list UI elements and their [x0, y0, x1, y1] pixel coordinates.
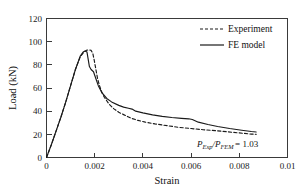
annotation-value: = 1.03	[235, 139, 259, 149]
y-tick-label: 0	[38, 153, 43, 163]
y-tick-label: 40	[33, 106, 43, 116]
series-line-fe-model	[47, 51, 257, 158]
y-tick-label: 120	[29, 14, 43, 24]
y-tick-label: 20	[33, 130, 43, 140]
annotation-denominator-sub: FEM	[219, 143, 234, 150]
x-tick-labels: 0 0.002 0.004 0.006 0.008 0.01	[44, 161, 295, 171]
x-tick-label: 0	[44, 161, 49, 171]
legend-label-experiment: Experiment	[228, 24, 273, 34]
x-tick-label: 0.002	[85, 161, 105, 171]
y-tick-label: 80	[33, 60, 43, 70]
load-strain-chart: 0 20 40 60 80 100 120 0 0.002 0.004 0.00…	[0, 0, 305, 192]
x-tick-label: 0.004	[133, 161, 154, 171]
x-tick-label: 0.006	[181, 161, 202, 171]
legend-label-fe-model: FE model	[228, 40, 266, 50]
series-line-experiment	[47, 50, 257, 158]
x-tick-marks	[47, 153, 288, 158]
annotation-numerator-sub: Exp	[202, 143, 213, 150]
chart-legend: Experiment FE model	[200, 24, 273, 50]
chart-svg: 0 20 40 60 80 100 120 0 0.002 0.004 0.00…	[0, 0, 305, 192]
y-axis-title: Load (kN)	[7, 65, 19, 110]
y-tick-label: 100	[29, 37, 43, 47]
x-tick-label: 0.008	[229, 161, 250, 171]
y-tick-marks	[47, 19, 52, 158]
y-tick-label: 60	[33, 83, 43, 93]
x-axis-title: Strain	[154, 175, 180, 186]
x-tick-label: 0.01	[280, 161, 296, 171]
ratio-annotation: PExp/PFEM= 1.03	[196, 139, 259, 150]
y-tick-labels: 0 20 40 60 80 100 120	[29, 14, 43, 163]
